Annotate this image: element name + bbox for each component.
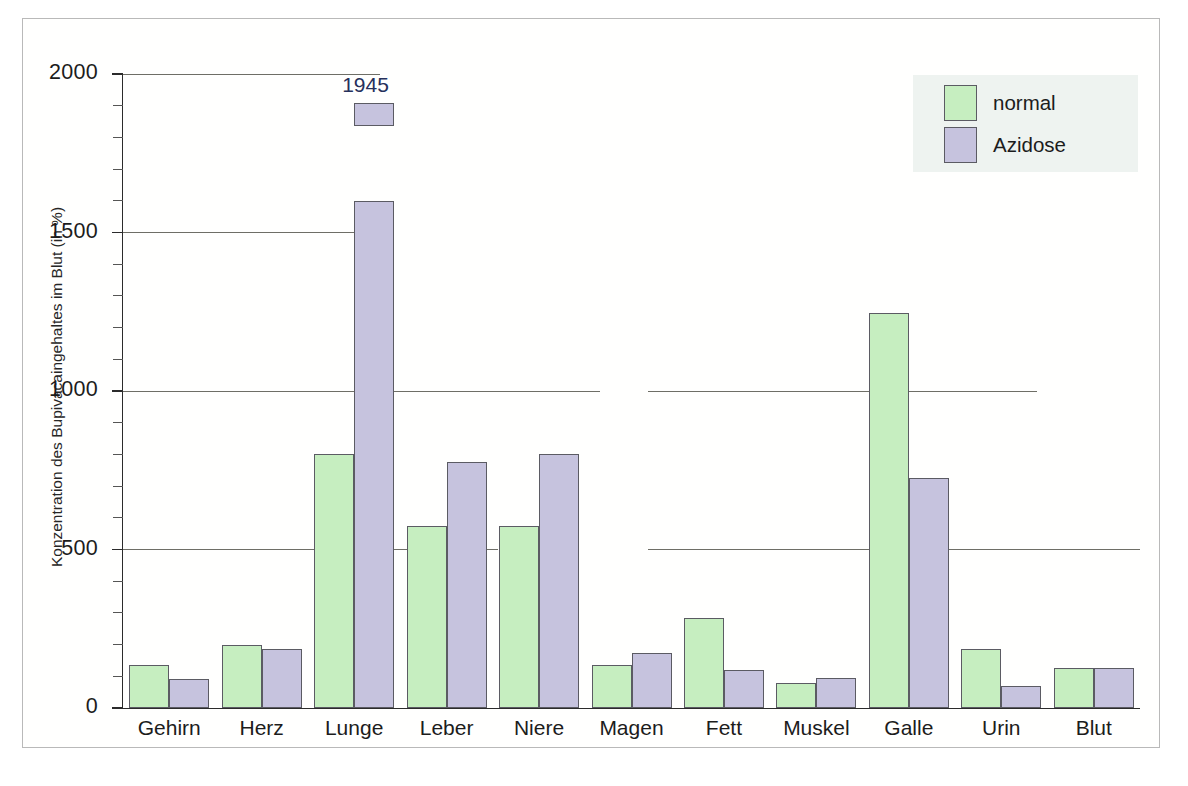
- x-category-label-blut: Blut: [1048, 716, 1140, 740]
- y-tick-minor: [113, 264, 123, 265]
- bar-galle-azidose: [909, 478, 949, 708]
- legend-item-azidose: Azidose: [944, 127, 1066, 163]
- bar-value-annotation: 1945: [342, 73, 389, 97]
- legend-label-normal: normal: [993, 91, 1056, 115]
- y-tick-minor: [113, 581, 123, 582]
- y-tick-minor: [113, 612, 123, 613]
- legend-swatch-normal: [944, 85, 977, 121]
- x-category-label-galle: Galle: [863, 716, 955, 740]
- y-tick-minor: [113, 676, 123, 677]
- y-tick-minor: [113, 486, 123, 487]
- gridline: [648, 549, 875, 550]
- y-tick-minor: [113, 137, 123, 138]
- bar-lunge-normal: [314, 454, 354, 708]
- bar-urin-normal: [961, 649, 1001, 708]
- y-tick-label: 0: [12, 694, 98, 719]
- bar-muskel-azidose: [816, 678, 856, 708]
- legend-item-normal: normal: [944, 85, 1056, 121]
- y-tick-minor: [113, 517, 123, 518]
- bar-niere-normal: [499, 526, 539, 708]
- y-tick-minor: [113, 169, 123, 170]
- x-category-label-gehirn: Gehirn: [123, 716, 215, 740]
- y-tick-label: 500: [12, 536, 98, 561]
- gridline: [945, 549, 1140, 550]
- bar-fett-normal: [684, 618, 724, 708]
- y-tick-minor: [113, 295, 123, 296]
- y-tick-minor: [113, 359, 123, 360]
- bar-galle-normal: [869, 313, 909, 708]
- bar-lunge-azidose-main: [354, 201, 394, 708]
- legend-label-azidose: Azidose: [993, 133, 1066, 157]
- bar-muskel-normal: [776, 683, 816, 708]
- legend-swatch-azidose: [944, 127, 977, 163]
- bar-blut-azidose: [1094, 668, 1134, 708]
- bar-gehirn-normal: [129, 665, 169, 708]
- bar-gehirn-azidose: [169, 679, 209, 708]
- x-category-label-urin: Urin: [955, 716, 1047, 740]
- y-tick-minor: [113, 327, 123, 328]
- chart-figure: Konzentration des Bupivacaingehaltes im …: [0, 0, 1188, 786]
- gridline: [123, 232, 380, 233]
- x-category-label-lunge: Lunge: [308, 716, 400, 740]
- y-tick-major: [112, 232, 123, 233]
- y-tick-major: [112, 549, 123, 550]
- gridline: [648, 391, 1037, 392]
- y-tick-label: 1000: [12, 377, 98, 402]
- y-tick-minor: [113, 105, 123, 106]
- bar-fett-azidose: [724, 670, 764, 708]
- y-tick-major: [112, 73, 123, 74]
- x-category-label-muskel: Muskel: [770, 716, 862, 740]
- y-tick-major: [112, 707, 123, 708]
- bar-herz-normal: [222, 645, 262, 708]
- y-tick-label: 2000: [12, 60, 98, 85]
- bar-leber-azidose: [447, 462, 487, 708]
- x-category-label-leber: Leber: [400, 716, 492, 740]
- x-category-label-herz: Herz: [215, 716, 307, 740]
- bar-magen-normal: [592, 665, 632, 708]
- chart-legend: normal Azidose: [913, 75, 1138, 172]
- bar-urin-azidose: [1001, 686, 1041, 708]
- bar-leber-normal: [407, 526, 447, 708]
- y-tick-major: [112, 390, 123, 391]
- bar-niere-azidose: [539, 454, 579, 708]
- y-tick-label: 1500: [12, 219, 98, 244]
- x-category-label-fett: Fett: [678, 716, 770, 740]
- bar-magen-azidose: [632, 653, 672, 708]
- y-tick-minor: [113, 200, 123, 201]
- x-category-label-niere: Niere: [493, 716, 585, 740]
- bar-lunge-azidose-cap: [354, 103, 394, 127]
- y-tick-minor: [113, 422, 123, 423]
- bar-herz-azidose: [262, 649, 302, 708]
- y-tick-minor: [113, 454, 123, 455]
- bar-blut-normal: [1054, 668, 1094, 708]
- y-tick-minor: [113, 644, 123, 645]
- x-category-label-magen: Magen: [585, 716, 677, 740]
